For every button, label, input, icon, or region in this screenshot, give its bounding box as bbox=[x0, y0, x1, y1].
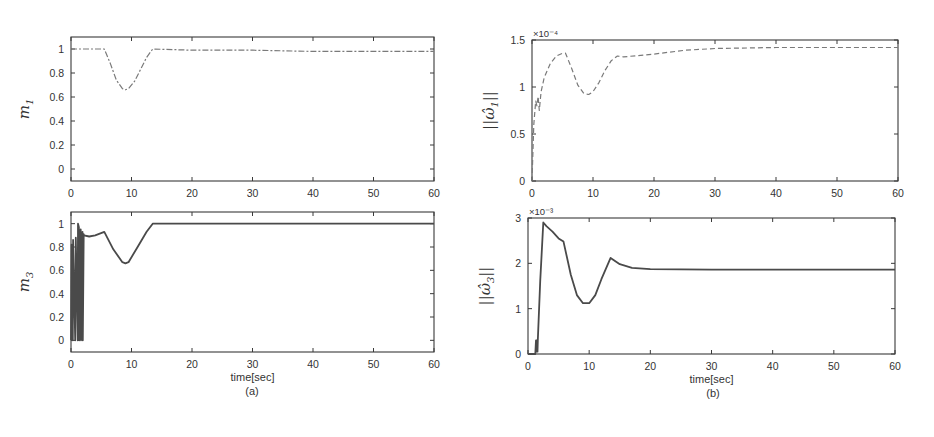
axes-box bbox=[528, 218, 895, 354]
x-tick-label: 0 bbox=[529, 187, 535, 199]
plot-omega3: 01020304050600123×10⁻³||ω̂3||time[sec] bbox=[476, 206, 901, 385]
y-tick-label: 0.8 bbox=[49, 241, 64, 253]
y-axis-label: m3 bbox=[15, 272, 35, 293]
x-tick-label: 40 bbox=[307, 187, 319, 199]
x-axis-label: time[sec] bbox=[689, 373, 733, 385]
x-tick-label: 10 bbox=[587, 187, 599, 199]
series-line-omega1 bbox=[532, 48, 898, 182]
y-tick-label: 0.4 bbox=[49, 115, 64, 127]
series-line-omega3 bbox=[528, 223, 895, 355]
y-axis-label: m1 bbox=[15, 99, 35, 120]
figure: 010203040506000.20.40.60.81m101020304050… bbox=[0, 0, 934, 437]
y-tick-label: 0.6 bbox=[49, 91, 64, 103]
y-tick-label: 1.5 bbox=[510, 34, 525, 46]
axes-box bbox=[71, 37, 434, 181]
x-tick-label: 30 bbox=[247, 358, 259, 370]
x-tick-label: 10 bbox=[126, 358, 138, 370]
y-tick-label: 0.6 bbox=[49, 264, 64, 276]
y-axis-label: ||ω̂1|| bbox=[480, 91, 500, 130]
x-tick-label: 60 bbox=[428, 187, 440, 199]
plot-m3: 010203040506000.20.40.60.81m3time[sec] bbox=[15, 212, 440, 383]
axis-exponent-label: ×10⁻³ bbox=[529, 206, 553, 217]
y-tick-label: 1 bbox=[58, 43, 64, 55]
y-tick-label: 0 bbox=[519, 175, 525, 187]
x-tick-label: 50 bbox=[368, 358, 380, 370]
x-tick-label: 40 bbox=[767, 360, 779, 372]
x-tick-label: 40 bbox=[770, 187, 782, 199]
y-tick-label: 2 bbox=[515, 257, 521, 269]
x-tick-label: 60 bbox=[892, 187, 904, 199]
y-tick-label: 0.5 bbox=[510, 128, 525, 140]
x-tick-label: 20 bbox=[186, 187, 198, 199]
series-line-m1 bbox=[71, 49, 434, 90]
y-tick-label: 1 bbox=[58, 218, 64, 230]
axes-box bbox=[71, 212, 434, 352]
y-tick-label: 0.2 bbox=[49, 311, 64, 323]
y-tick-label: 0.2 bbox=[49, 139, 64, 151]
x-tick-label: 40 bbox=[307, 358, 319, 370]
x-tick-label: 60 bbox=[889, 360, 901, 372]
axes-box bbox=[532, 40, 898, 181]
y-tick-label: 1 bbox=[519, 81, 525, 93]
plot-m1: 010203040506000.20.40.60.81m1 bbox=[15, 37, 440, 199]
x-tick-label: 50 bbox=[831, 187, 843, 199]
x-tick-label: 20 bbox=[648, 187, 660, 199]
y-tick-label: 0.4 bbox=[49, 288, 64, 300]
x-tick-label: 0 bbox=[68, 187, 74, 199]
x-tick-label: 50 bbox=[368, 187, 380, 199]
x-tick-label: 10 bbox=[126, 187, 138, 199]
y-tick-label: 0 bbox=[58, 334, 64, 346]
x-tick-label: 30 bbox=[247, 187, 259, 199]
axis-exponent-label: ×10⁻⁴ bbox=[533, 28, 558, 39]
x-tick-label: 30 bbox=[709, 187, 721, 199]
x-tick-label: 10 bbox=[583, 360, 595, 372]
y-tick-label: 0 bbox=[58, 163, 64, 175]
caption-b: (b) bbox=[706, 387, 719, 399]
plot-omega1: 010203040506000.511.5×10⁻⁴||ω̂1|| bbox=[480, 28, 904, 199]
y-tick-label: 0.8 bbox=[49, 67, 64, 79]
x-axis-label: time[sec] bbox=[230, 371, 274, 383]
y-tick-label: 0 bbox=[515, 348, 521, 360]
y-axis-label: ||ω̂3|| bbox=[476, 267, 496, 306]
plots-container: 010203040506000.20.40.60.81m101020304050… bbox=[15, 28, 904, 385]
x-tick-label: 0 bbox=[68, 358, 74, 370]
series-line-m3 bbox=[71, 224, 434, 341]
x-tick-label: 20 bbox=[186, 358, 198, 370]
x-tick-label: 30 bbox=[706, 360, 718, 372]
x-tick-label: 50 bbox=[828, 360, 840, 372]
x-tick-label: 20 bbox=[644, 360, 656, 372]
y-tick-label: 3 bbox=[515, 212, 521, 224]
x-tick-label: 60 bbox=[428, 358, 440, 370]
caption-a: (a) bbox=[245, 385, 258, 397]
x-tick-label: 0 bbox=[525, 360, 531, 372]
y-tick-label: 1 bbox=[515, 303, 521, 315]
